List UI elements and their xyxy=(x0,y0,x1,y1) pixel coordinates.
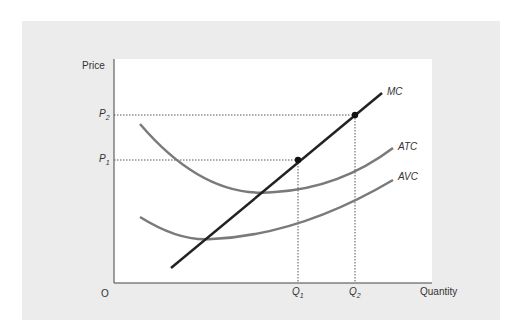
atc-label: ATC xyxy=(398,141,417,152)
p1-tick-label: P1 xyxy=(99,153,110,166)
p2-tick-label: P2 xyxy=(99,108,110,121)
y-axis-label: Price xyxy=(82,60,105,71)
avc-label: AVC xyxy=(398,171,418,182)
q1-tick-label: Q1 xyxy=(292,286,304,299)
q2-tick-label: Q2 xyxy=(349,286,361,299)
cost-curves-chart xyxy=(0,0,517,331)
mc-label: MC xyxy=(387,86,403,97)
point-q1-p1 xyxy=(295,157,301,163)
x-axis-label: Quantity xyxy=(420,286,457,297)
mc-curve xyxy=(171,93,382,268)
origin-label: O xyxy=(101,288,109,299)
point-q2-p2 xyxy=(352,112,358,118)
